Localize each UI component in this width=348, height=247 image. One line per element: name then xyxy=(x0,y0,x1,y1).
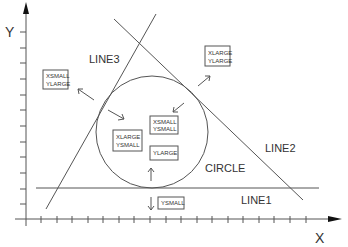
svg-text:YLARGE: YLARGE xyxy=(153,150,177,156)
y-axis-arrow-icon xyxy=(23,2,29,14)
svg-text:XLARGE: XLARGE xyxy=(208,50,232,56)
box-xsmall-ysmall: XSMALL YSMALL xyxy=(150,116,178,134)
box-ylarge: YLARGE xyxy=(150,146,178,160)
circle-label: CIRCLE xyxy=(205,162,245,174)
arrow-icon-down-left xyxy=(173,103,184,112)
arrow-icon-up xyxy=(148,168,154,181)
arrow-icon-down xyxy=(148,197,154,210)
box-xlarge-ysmall: XLARGE YSMALL xyxy=(113,130,142,151)
svg-text:XSMALL: XSMALL xyxy=(153,119,177,125)
svg-text:YSMALL: YSMALL xyxy=(161,200,185,206)
x-axis-arrow-icon xyxy=(328,216,342,222)
line2-label: LINE2 xyxy=(265,142,296,154)
line3 xyxy=(46,14,156,209)
svg-text:XLARGE: XLARGE xyxy=(116,134,140,140)
arrow-icon-up-left xyxy=(78,89,94,100)
svg-text:YSMALL: YSMALL xyxy=(116,142,140,148)
arrow-icon-down-right xyxy=(108,110,124,120)
diagram-canvas: Y X LINE3 LINE2 LINE1 CIRCLE XSMALL YLAR… xyxy=(0,0,348,247)
svg-text:XSMALL: XSMALL xyxy=(46,73,70,79)
y-ticks xyxy=(20,32,26,204)
y-axis-label: Y xyxy=(5,24,15,40)
svg-text:YSMALL: YSMALL xyxy=(153,126,177,132)
arrow-icon-up-right xyxy=(198,76,210,86)
line3-label: LINE3 xyxy=(89,53,120,65)
box-xsmall-ylarge: XSMALL YLARGE xyxy=(43,70,70,89)
box-xlarge-ylarge: XLARGE YLARGE xyxy=(205,46,232,66)
line1-label: LINE1 xyxy=(241,194,272,206)
svg-text:YLARGE: YLARGE xyxy=(208,58,232,64)
svg-text:YLARGE: YLARGE xyxy=(46,81,70,87)
box-ysmall: YSMALL xyxy=(158,197,185,209)
x-axis-label: X xyxy=(315,230,325,246)
